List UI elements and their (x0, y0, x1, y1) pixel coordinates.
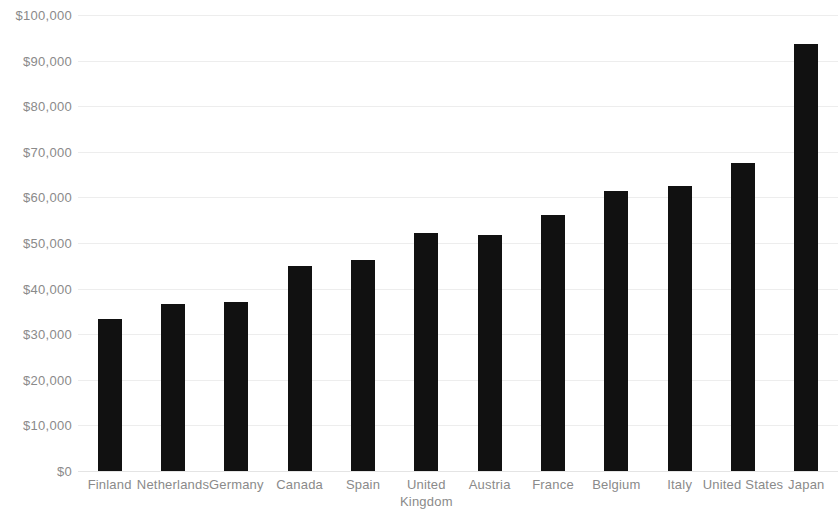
y-axis-tick-label: $70,000 (0, 144, 72, 159)
bar (541, 215, 565, 471)
y-axis-tick-label: $80,000 (0, 99, 72, 114)
bar (478, 235, 502, 471)
bars-layer (78, 15, 838, 471)
x-axis-tick-label: Japan (763, 476, 838, 493)
bar (668, 186, 692, 471)
y-axis-tick-label: $60,000 (0, 190, 72, 205)
bar (794, 44, 818, 471)
y-axis-tick-label: $0 (0, 464, 72, 479)
bar (161, 304, 185, 471)
bar (288, 266, 312, 471)
bar (351, 260, 375, 471)
y-axis-tick-label: $40,000 (0, 281, 72, 296)
bar (731, 163, 755, 471)
plot-area (78, 15, 838, 471)
bar (224, 302, 248, 471)
bar (414, 233, 438, 471)
y-axis-tick-label: $30,000 (0, 327, 72, 342)
y-axis: $0$10,000$20,000$30,000$40,000$50,000$60… (0, 0, 72, 514)
y-axis-tick-label: $50,000 (0, 236, 72, 251)
y-axis-tick-label: $90,000 (0, 53, 72, 68)
bar (98, 319, 122, 471)
bar (604, 191, 628, 471)
x-axis: FinlandNetherlandsGermanyCanadaSpainUnit… (78, 476, 838, 514)
y-axis-tick-label: $20,000 (0, 372, 72, 387)
y-axis-tick-label: $100,000 (0, 8, 72, 23)
y-axis-tick-label: $10,000 (0, 418, 72, 433)
bar-chart: $0$10,000$20,000$30,000$40,000$50,000$60… (0, 0, 838, 514)
axis-baseline (78, 471, 838, 472)
